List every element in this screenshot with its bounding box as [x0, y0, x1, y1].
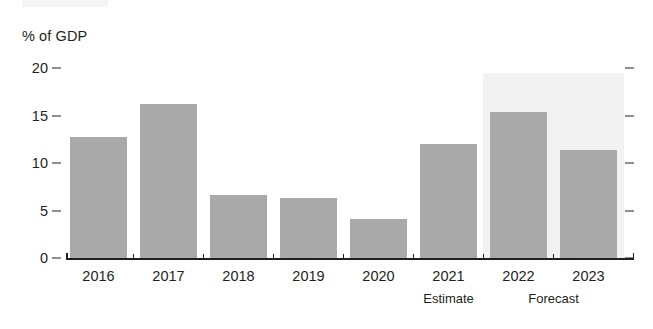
x-axis-label-2017: 2017	[152, 268, 184, 284]
bar-2021	[420, 144, 477, 258]
y-axis-tick-mark-right	[625, 163, 634, 164]
y-axis-tick-mark-right	[625, 210, 634, 211]
bar-2022	[490, 112, 547, 258]
bar-2018	[210, 195, 267, 258]
plot-area: 0510152020162017201820192020202120222023…	[0, 0, 653, 329]
bar-2020	[350, 219, 407, 258]
y-axis-tick-label: 0	[14, 250, 48, 266]
x-axis-label-2023: 2023	[572, 268, 604, 284]
x-axis-tick-mark	[203, 254, 204, 258]
bar-2016	[70, 137, 127, 258]
y-axis-tick-mark	[52, 258, 61, 259]
x-axis-tick-mark	[343, 254, 344, 258]
annotation-forecast: Forecast	[528, 291, 579, 306]
y-axis-tick-mark	[52, 210, 61, 211]
y-axis-tick-label: 20	[14, 60, 48, 76]
x-axis-left-cap	[66, 253, 68, 258]
x-axis-tick-mark	[273, 254, 274, 258]
bar-2019	[280, 198, 337, 258]
y-axis-tick-mark	[52, 163, 61, 164]
x-axis-right-cap	[633, 253, 635, 258]
y-axis-tick-mark	[52, 68, 61, 69]
x-axis-tick-mark	[553, 254, 554, 258]
y-axis-tick-mark-right	[625, 115, 634, 116]
bar-2017	[140, 104, 197, 258]
y-axis-tick-label: 15	[14, 108, 48, 124]
y-axis-tick-label: 10	[14, 155, 48, 171]
y-axis-tick-mark	[52, 115, 61, 116]
bar-2023	[560, 150, 617, 258]
x-axis-label-2020: 2020	[362, 268, 394, 284]
y-axis-tick-label: 5	[14, 203, 48, 219]
x-axis-label-2018: 2018	[222, 268, 254, 284]
x-axis-label-2022: 2022	[502, 268, 534, 284]
y-axis-tick-mark-right	[625, 68, 634, 69]
x-axis-label-2019: 2019	[292, 268, 324, 284]
x-axis-label-2021: 2021	[432, 268, 464, 284]
x-axis-line	[66, 258, 634, 260]
x-axis-label-2016: 2016	[82, 268, 114, 284]
chart-root: % of GDP 0510152020162017201820192020202…	[0, 0, 653, 329]
x-axis-tick-mark	[133, 254, 134, 258]
x-axis-tick-mark	[413, 254, 414, 258]
annotation-estimate: Estimate	[423, 291, 474, 306]
x-axis-tick-mark	[483, 254, 484, 258]
